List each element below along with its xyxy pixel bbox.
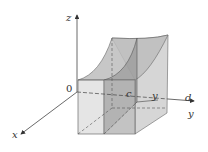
y-mark-d: d [185, 92, 191, 103]
z-axis-label: z [65, 12, 72, 23]
y-mark-y: y [151, 90, 158, 101]
origin-label: 0 [66, 83, 72, 94]
x-axis [21, 92, 77, 134]
y-axis-label: y [187, 108, 194, 119]
x-axis-label: x [12, 129, 18, 140]
diagram-canvas: z x y 0 c y d [0, 0, 208, 152]
y-mark-c: c [126, 88, 132, 99]
